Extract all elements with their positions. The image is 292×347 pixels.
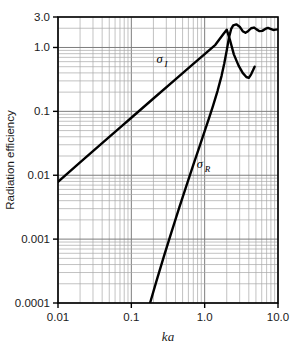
- annotation-symbol: σ: [156, 52, 163, 66]
- chart-canvas: 0.010.11.010.03.01.00.10.010.0010.0001 σ…: [0, 0, 292, 347]
- y-tick-label: 1.0: [34, 41, 50, 53]
- x-tick-label: 1.0: [197, 311, 213, 323]
- annotation-symbol: σ: [197, 157, 204, 171]
- x-tick-label: 0.01: [47, 311, 69, 323]
- radiation-efficiency-chart: 0.010.11.010.03.01.00.10.010.0010.0001 σ…: [0, 0, 292, 347]
- annotation-subscript: R: [204, 164, 211, 174]
- y-tick-label: 3.0: [34, 11, 50, 23]
- y-axis-title: Radiation efficiency: [4, 110, 16, 210]
- x-tick-label: 0.1: [123, 311, 139, 323]
- y-tick-label: 0.01: [28, 169, 50, 181]
- y-tick-label: 0.0001: [15, 297, 50, 309]
- x-axis-title: ka: [162, 329, 175, 344]
- y-tick-label: 0.001: [21, 233, 50, 245]
- x-tick-label: 10.0: [267, 311, 289, 323]
- y-tick-label: 0.1: [34, 105, 50, 117]
